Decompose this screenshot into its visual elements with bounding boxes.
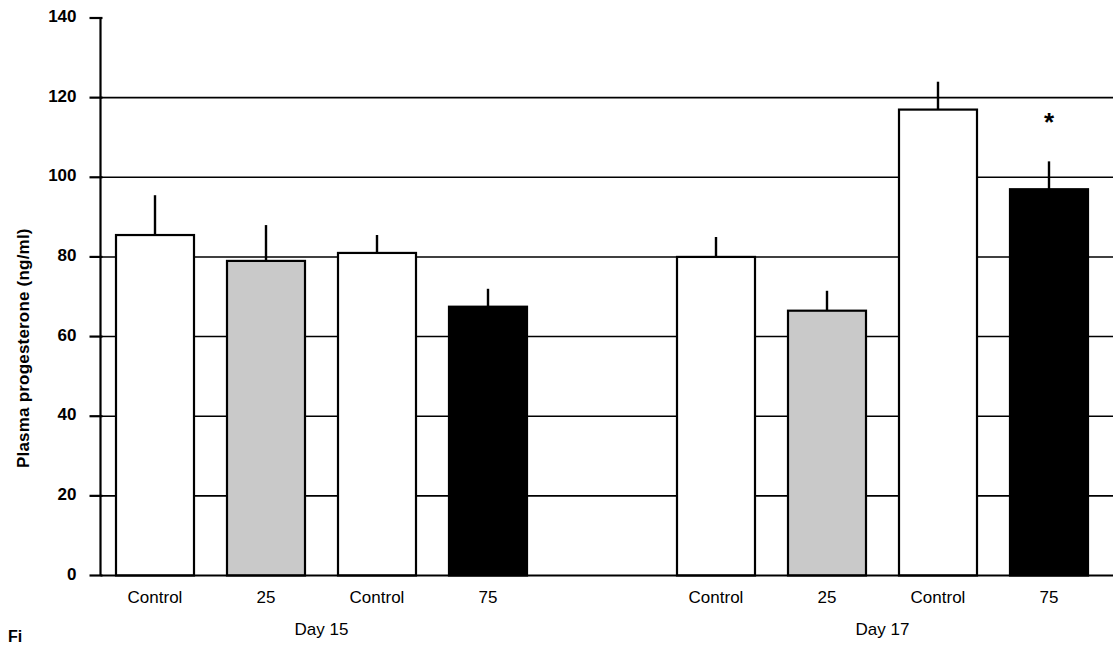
- x-tick-label: Control: [911, 588, 966, 608]
- bar-chart: [0, 0, 1117, 653]
- x-tick-label: Control: [689, 588, 744, 608]
- x-tick-label: 25: [257, 588, 276, 608]
- bar-day-17-control: [899, 110, 977, 576]
- figure-caption: Fi: [8, 628, 22, 646]
- significance-asterisk: *: [1044, 109, 1054, 135]
- y-tick-label: 20: [27, 485, 77, 505]
- bar-day-15-75: [449, 307, 527, 576]
- x-tick-label: 75: [479, 588, 498, 608]
- figure-container: Plasma progesterone (ng/ml) 020406080100…: [0, 0, 1117, 653]
- y-tick-label: 80: [27, 246, 77, 266]
- bars-group: [116, 110, 1088, 576]
- bar-day-17-75: [1010, 189, 1088, 575]
- y-tick-label: 0: [27, 565, 77, 585]
- x-group-label: Day 17: [856, 620, 910, 640]
- bar-day-15-control: [338, 253, 416, 576]
- x-tick-label: Control: [350, 588, 405, 608]
- y-tick-label: 100: [27, 166, 77, 186]
- x-group-label: Day 15: [295, 620, 349, 640]
- bar-day-17-control: [677, 257, 755, 576]
- y-tick-label: 40: [27, 405, 77, 425]
- y-tick-label: 140: [27, 7, 77, 27]
- y-tick-label: 60: [27, 326, 77, 346]
- bar-day-15-control: [116, 235, 194, 575]
- bar-day-15-25: [227, 261, 305, 576]
- y-tick-label: 120: [27, 87, 77, 107]
- x-tick-label: Control: [128, 588, 183, 608]
- x-tick-label: 75: [1040, 588, 1059, 608]
- bar-day-17-25: [788, 311, 866, 576]
- x-tick-label: 25: [818, 588, 837, 608]
